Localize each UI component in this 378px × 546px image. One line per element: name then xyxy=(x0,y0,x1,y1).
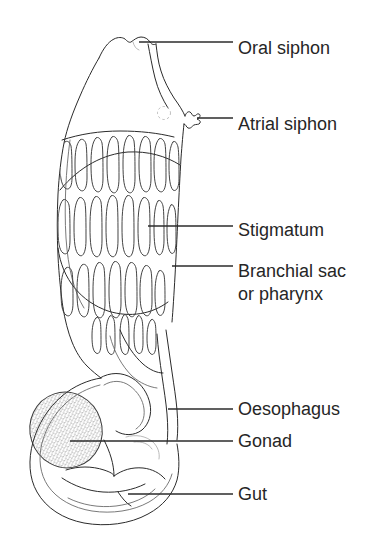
gonad xyxy=(20,383,112,478)
atrial-siphon-pore xyxy=(158,107,171,120)
peripharyngeal-band xyxy=(60,152,180,190)
oesophagus xyxy=(100,330,178,444)
stigmata-row-3 xyxy=(61,261,165,317)
label-atrial-siphon: Atrial siphon xyxy=(238,114,337,134)
label-gut: Gut xyxy=(238,484,267,504)
label-branchial-sac-line2: or pharynx xyxy=(238,284,323,304)
label-oral-siphon: Oral siphon xyxy=(238,38,330,58)
labels: Oral siphon Atrial siphon Stigmatum Bran… xyxy=(238,38,346,504)
diagram-canvas: Oral siphon Atrial siphon Stigmatum Bran… xyxy=(0,0,378,546)
organism-drawing: Oral siphon Atrial siphon Stigmatum Bran… xyxy=(20,37,346,525)
atrial-siphon-outline xyxy=(184,112,200,128)
label-gonad: Gonad xyxy=(238,431,292,451)
stigmata-row-4 xyxy=(92,314,156,354)
stigmata-row-1 xyxy=(60,135,179,192)
label-branchial-sac-line1: Branchial sac xyxy=(238,261,346,281)
label-stigmatum: Stigmatum xyxy=(238,220,324,240)
anatomy-diagram: Oral siphon Atrial siphon Stigmatum Bran… xyxy=(0,0,378,546)
label-oesophagus: Oesophagus xyxy=(238,399,340,419)
